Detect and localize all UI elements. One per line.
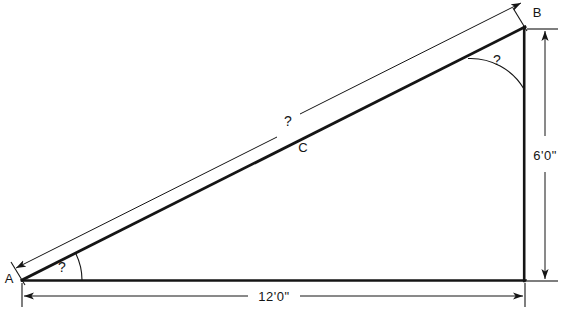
triangle-diagram: ? ? A B C ?: [0, 0, 563, 311]
hypotenuse-label-c: C: [298, 140, 307, 155]
triangle-hypotenuse-edge: [22, 27, 525, 280]
vertex-label-a: A: [5, 271, 14, 286]
angle-arc-a: [75, 253, 82, 280]
hypotenuse-dimension-value: ?: [284, 113, 292, 129]
hyp-dim-arrow-segment-left: [16, 137, 277, 268]
vertex-label-b: B: [533, 5, 542, 20]
angle-b-value: ?: [493, 52, 501, 68]
hypotenuse-dimension-line: [11, 3, 527, 285]
hyp-dim-arrow-segment-right: [300, 3, 521, 114]
horizontal-dimension-value: 12'0": [258, 289, 289, 304]
triangle-outline: [22, 27, 526, 281]
hyp-dim-extension-tick-b: [513, 8, 527, 31]
angle-a-value: ?: [58, 259, 66, 275]
diagram-canvas: ? ? A B C ?: [0, 0, 563, 311]
vertical-dimension-value: 6'0": [533, 148, 557, 163]
